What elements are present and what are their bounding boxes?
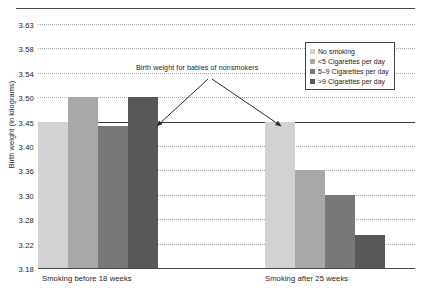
legend-swatch-no-smoking	[310, 49, 315, 54]
x-axis-line	[38, 268, 415, 269]
x-axis-label-group-2: Smoking after 25 weeks	[265, 274, 348, 283]
legend-swatch-over-9	[310, 79, 315, 84]
legend-swatch-5-to-9	[310, 69, 315, 74]
gridline: 3.63	[38, 24, 415, 25]
legend-item-under-5: <5 Cigarettes per day	[310, 56, 389, 66]
y-axis-tick-label: 3.22	[18, 240, 34, 249]
y-axis-tick-label: 3.36	[18, 167, 34, 176]
legend-item-5-to-9: 5–9 Cigarettes per day	[310, 66, 389, 76]
y-axis-tick-label: 3.40	[18, 143, 34, 152]
y-axis-tick-label: 3.18	[18, 265, 34, 274]
bar	[325, 195, 355, 268]
y-axis-tick-label: 3.54	[18, 69, 34, 78]
legend-label-over-9: >9 Cigarettes per day	[318, 78, 385, 85]
y-axis-tick-label: 3.45	[18, 118, 34, 127]
chart-figure: Birth weight (in kilograms) 3.633.583.54…	[0, 0, 425, 294]
y-axis-tick-label: 3.50	[18, 94, 34, 103]
legend-label-no-smoking: No smoking	[318, 48, 355, 55]
bar	[98, 126, 128, 268]
legend-label-5-to-9: 5–9 Cigarettes per day	[318, 68, 389, 75]
bar	[265, 122, 295, 268]
legend-item-no-smoking: No smoking	[310, 46, 389, 56]
legend: No smoking <5 Cigarettes per day 5–9 Cig…	[305, 42, 395, 90]
y-axis-tick-label: 3.63	[18, 21, 34, 30]
y-axis-tick-label: 3.58	[18, 45, 34, 54]
y-axis-tick-label: 3.30	[18, 191, 34, 200]
header-divider	[16, 8, 415, 9]
legend-item-over-9: >9 Cigarettes per day	[310, 76, 389, 86]
y-axis-tick-label: 3.28	[18, 216, 34, 225]
bar	[68, 97, 98, 268]
bar	[355, 235, 385, 268]
y-axis-title: Birth weight (in kilograms)	[7, 45, 16, 205]
bar	[128, 97, 158, 268]
legend-label-under-5: <5 Cigarettes per day	[318, 58, 385, 65]
legend-swatch-under-5	[310, 59, 315, 64]
bar	[295, 170, 325, 268]
bar	[38, 122, 68, 268]
annotation-label: Birth weight for babies of nonsmokers	[136, 64, 258, 72]
x-axis-label-group-1: Smoking before 18 weeks	[42, 274, 132, 283]
